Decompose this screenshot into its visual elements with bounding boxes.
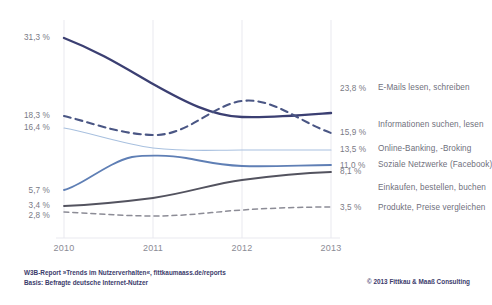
left-value-label-informationen: 18,3 % bbox=[8, 111, 50, 120]
series-name-informationen: Informationen suchen, lesen bbox=[378, 120, 484, 129]
footer-source-block: W3B-Report »Trends im Nutzerverhalten«, … bbox=[24, 268, 226, 287]
footer-copyright: © 2013 Fittkau & Maaß Consulting bbox=[367, 278, 470, 285]
series-line-online-banking bbox=[64, 128, 331, 151]
plot-area: 31,3 % 18,3 % 16,4 % 5,7 % 3,4 % 2,8 % 2… bbox=[0, 0, 484, 260]
series-name-online-banking: Online-Banking, -Broking bbox=[378, 144, 471, 153]
series-line-e-mails bbox=[64, 38, 331, 117]
left-value-label-produkte: 2,8 % bbox=[8, 211, 50, 220]
series-name-soziale-netzwerke: Soziale Netzwerke (Facebook) bbox=[378, 160, 492, 169]
footer-source-line: W3B-Report »Trends im Nutzerverhalten«, … bbox=[24, 268, 226, 278]
series-lines bbox=[64, 38, 331, 216]
left-value-label-soziale-netzwerke: 5,7 % bbox=[8, 186, 50, 195]
x-axis-tick-2013: 2013 bbox=[311, 243, 351, 253]
left-value-label-einkaufen: 3,4 % bbox=[8, 201, 50, 210]
right-value-einkaufen: 8,1 % bbox=[340, 167, 361, 176]
left-value-label-online-banking: 16,4 % bbox=[8, 123, 50, 132]
series-line-soziale-netzwerke bbox=[64, 156, 331, 190]
series-name-einkaufen: Einkaufen, bestellen, buchen bbox=[378, 183, 486, 192]
right-value-online-banking: 13,5 % bbox=[340, 145, 366, 154]
chart-svg bbox=[0, 0, 484, 260]
right-value-informationen: 15,9 % bbox=[340, 128, 366, 137]
footer: W3B-Report »Trends im Nutzerverhalten«, … bbox=[0, 268, 484, 305]
x-axis-tick-2012: 2012 bbox=[222, 243, 262, 253]
series-name-produkte: Produkte, Preise vergleichen bbox=[378, 203, 485, 212]
series-line-produkte bbox=[64, 207, 331, 216]
series-line-einkaufen bbox=[64, 172, 331, 206]
series-name-e-mails: E-Mails lesen, schreiben bbox=[378, 83, 470, 92]
right-value-e-mails: 23,8 % bbox=[340, 84, 366, 93]
left-value-label-e-mails: 31,3 % bbox=[8, 33, 50, 42]
x-axis-tick-2010: 2010 bbox=[44, 243, 84, 253]
right-value-produkte: 3,5 % bbox=[340, 203, 361, 212]
footer-basis-line: Basis: Befragte deutsche Internet-Nutzer bbox=[24, 278, 226, 288]
x-axis-tick-2011: 2011 bbox=[133, 243, 173, 253]
